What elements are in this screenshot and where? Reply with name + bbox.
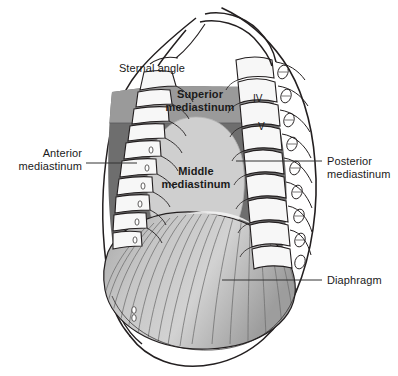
- mediastinum-figure: Sternal angle Superior mediastinum Middl…: [0, 0, 398, 376]
- label-posterior-mediastinum-line2: mediastinum: [327, 168, 398, 181]
- label-posterior-mediastinum-line1: Posterior: [327, 155, 398, 168]
- label-superior-mediastinum-line1: Superior: [146, 88, 254, 101]
- label-anterior-mediastinum-line1: Anterior: [0, 147, 82, 160]
- label-vertebra-four: IV: [253, 93, 262, 104]
- label-superior-mediastinum-line2: mediastinum: [146, 101, 254, 114]
- superior-thoracic-aperture: [150, 24, 205, 64]
- label-vertebra-five: V: [258, 121, 265, 132]
- label-middle-mediastinum-line2: mediastinum: [142, 178, 250, 191]
- label-diaphragm: Diaphragm: [327, 274, 398, 287]
- label-middle-mediastinum-line1: Middle: [142, 165, 250, 178]
- label-sternal-angle: Sternal angle: [100, 62, 204, 75]
- label-anterior-mediastinum-line2: mediastinum: [0, 160, 82, 173]
